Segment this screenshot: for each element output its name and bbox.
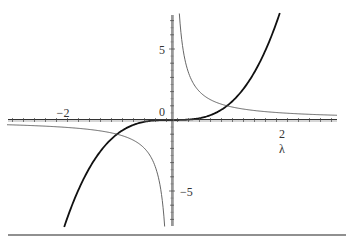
y-tick-label-0: 0 [159, 105, 165, 119]
plot-canvas: −2 2 5 0 −5 λ [0, 0, 346, 239]
x-axis-label: λ [279, 142, 285, 156]
y-tick-label-neg5: −5 [180, 185, 193, 199]
x-tick-label-neg2: −2 [57, 106, 70, 120]
y-tick-label-5: 5 [159, 43, 165, 57]
x-tick-label-2: 2 [279, 127, 285, 141]
